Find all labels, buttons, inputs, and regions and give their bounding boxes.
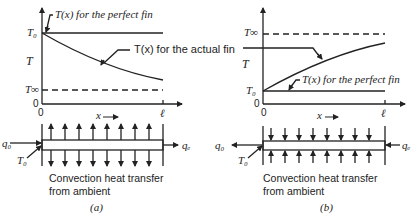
t-axis-label-a: T (26, 55, 33, 67)
panel-label-a: (a) (90, 202, 103, 213)
actual-fin-curve (42, 33, 163, 80)
x-label-a: x (96, 110, 101, 121)
q0-label-a: q₀ (2, 138, 11, 149)
ell-label-a: ℓ (160, 108, 165, 119)
zero-x-a: 0 (38, 108, 44, 118)
zero-x-b: 0 (261, 108, 267, 118)
zero-y-b: 0 (254, 99, 260, 109)
q0-label-b: q₀ (215, 140, 224, 151)
caption-b-line2: from ambient (263, 185, 324, 198)
panel-a-fin (10, 124, 178, 166)
t0-fin-label-b: T₀ (238, 155, 248, 166)
t-axis-label-b: T (242, 58, 249, 70)
panel-a-plot (42, 8, 182, 117)
caption-a-line1: Convection heat transfer (49, 172, 163, 185)
panel-label-b: (b) (320, 202, 333, 213)
t0-label-a: T₀ (27, 27, 37, 38)
ell-label-b: ℓ (381, 108, 386, 119)
t0-label-b: T₀ (246, 85, 256, 96)
qe-label-a: qₑ (182, 140, 190, 151)
qe-label-b: qₑ (402, 140, 410, 151)
panel-b-fin (232, 126, 400, 165)
actual-fin-label-a: T(x) for the actual fin (134, 44, 235, 55)
t0-fin-label-a: T₀ (17, 155, 27, 166)
tinf-label-a: T∞ (25, 84, 39, 95)
caption-a-line2: from ambient (49, 185, 110, 198)
perfect-fin-label-b: T(x) for the perfect fin (302, 74, 400, 85)
panel-b-plot (243, 8, 405, 117)
caption-b-line1: Convection heat transfer (263, 172, 377, 185)
tinf-label-b: T∞ (244, 27, 258, 38)
x-label-b: x (317, 110, 322, 121)
perfect-fin-label-a: T(x) for the perfect fin (55, 9, 153, 20)
